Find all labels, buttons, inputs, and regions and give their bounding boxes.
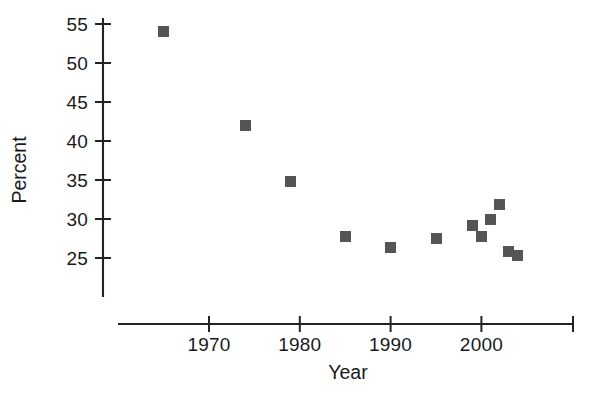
x-tick-label-1970: 1970 [187, 334, 230, 355]
plot-area: 25303540455055 1970198019902000 Percent … [0, 0, 614, 395]
y-tick-label-55: 55 [66, 14, 88, 35]
x-tick-label-1990: 1990 [369, 334, 412, 355]
data-point [385, 242, 396, 253]
y-tick-label-25: 25 [66, 248, 88, 269]
data-point [485, 214, 496, 225]
y-tick-label-30: 30 [66, 209, 88, 230]
y-axis: 25303540455055 [66, 14, 111, 298]
plot-canvas: 25303540455055 1970198019902000 Percent … [0, 0, 614, 395]
y-tick-label-35: 35 [66, 170, 88, 191]
data-point [158, 26, 169, 37]
data-point [512, 250, 523, 261]
y-tick-label-45: 45 [66, 92, 88, 113]
x-tick-label-2000: 2000 [460, 334, 503, 355]
data-point [494, 199, 505, 210]
y-tick-label-50: 50 [66, 53, 88, 74]
data-point [285, 176, 296, 187]
data-point [431, 233, 442, 244]
data-markers [158, 26, 523, 261]
data-point [467, 220, 478, 231]
y-tick-label-40: 40 [66, 131, 88, 152]
x-tick-label-1980: 1980 [278, 334, 321, 355]
data-point [476, 231, 487, 242]
x-axis: 1970198019902000 [118, 316, 574, 355]
data-point [240, 120, 251, 131]
x-axis-title: Year [328, 361, 368, 383]
data-point [340, 231, 351, 242]
scatter-plot-figure: 25303540455055 1970198019902000 Percent … [0, 0, 614, 395]
y-axis-title: Percent [8, 136, 30, 204]
